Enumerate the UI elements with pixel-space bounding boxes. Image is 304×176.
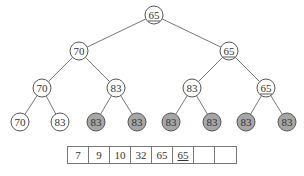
- array-cell: [194, 147, 215, 163]
- tree-edge: [87, 19, 146, 47]
- tree-node: 83: [128, 113, 146, 131]
- node-value: 83: [91, 116, 103, 128]
- array-cell-value: 32: [136, 149, 147, 161]
- tree-node: 83: [107, 79, 125, 97]
- array-cell: 9: [89, 147, 110, 163]
- array-cell: [215, 147, 236, 163]
- array-cell-value: 9: [96, 149, 102, 161]
- tree-node: 83: [162, 113, 180, 131]
- node-value: 70: [15, 116, 27, 128]
- tree-edge: [197, 96, 208, 114]
- node-value: 83: [187, 82, 199, 94]
- tree-edge: [198, 57, 222, 81]
- node-value: 83: [166, 116, 178, 128]
- array-cell: 10: [110, 147, 131, 163]
- array-cell: 32: [131, 147, 152, 163]
- tree-edge: [176, 96, 188, 115]
- tree-node: 83: [87, 113, 105, 131]
- tree-node: 70: [70, 42, 88, 60]
- tree-node: 70: [11, 113, 29, 131]
- tree-nodes: 657065708383657083838383838383: [11, 6, 296, 131]
- tree-node: 65: [257, 79, 275, 97]
- tree-node: 83: [51, 113, 69, 131]
- node-value: 83: [111, 82, 123, 94]
- node-value: 83: [132, 116, 144, 128]
- node-value: 65: [149, 9, 161, 21]
- array-cell: 65: [173, 147, 194, 163]
- tree-edge: [48, 57, 72, 81]
- node-value: 65: [261, 82, 273, 94]
- tree-node: 83: [203, 113, 221, 131]
- array-cell-value: 65: [157, 149, 168, 161]
- array-strip: 7910326565: [67, 146, 237, 164]
- node-value: 83: [241, 116, 253, 128]
- array-cell-value: 65: [178, 149, 189, 161]
- tree-edge: [85, 57, 109, 81]
- tree-edge: [121, 96, 133, 115]
- tree-edges: [25, 19, 282, 115]
- tree-node: 83: [278, 113, 296, 131]
- node-value: 65: [224, 45, 236, 57]
- array-cell: 7: [68, 147, 89, 163]
- node-value: 83: [282, 116, 294, 128]
- array-cell-value: 10: [115, 149, 126, 161]
- tree-edge: [235, 57, 259, 81]
- tree-edge: [271, 96, 283, 115]
- tree-edge: [162, 19, 221, 47]
- array-cell-value: 7: [75, 149, 81, 161]
- node-value: 83: [55, 116, 67, 128]
- tree-edge: [25, 96, 37, 115]
- tree-edge: [251, 96, 262, 114]
- node-value: 83: [207, 116, 219, 128]
- tree-node: 65: [145, 6, 163, 24]
- node-value: 70: [37, 82, 49, 94]
- tree-node: 83: [237, 113, 255, 131]
- node-value: 70: [74, 45, 86, 57]
- tree-edge: [101, 96, 112, 114]
- array-cell: 65: [152, 147, 173, 163]
- tree-node: 83: [183, 79, 201, 97]
- tree-node: 65: [220, 42, 238, 60]
- tree-node: 70: [33, 79, 51, 97]
- tree-edge: [46, 96, 56, 114]
